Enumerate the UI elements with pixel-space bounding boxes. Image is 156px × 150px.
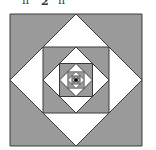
- center-point: [74, 78, 77, 81]
- nested-squares-diagram: [0, 0, 156, 150]
